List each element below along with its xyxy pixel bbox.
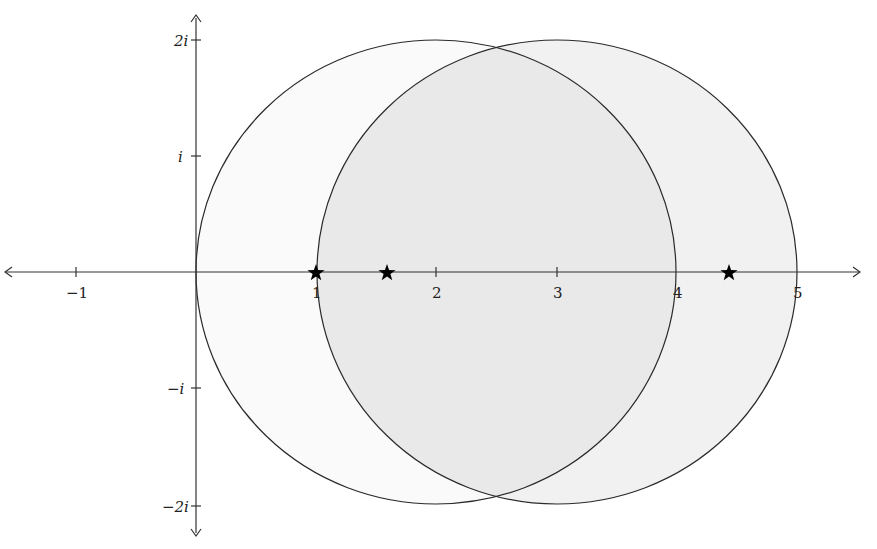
tick-label-i: i [178, 148, 183, 166]
tick-label-neg1: −1 [66, 284, 88, 302]
tick-label-neg-i: −i [167, 380, 185, 398]
tick-label-2: 2 [432, 284, 442, 302]
complex-plane-diagram: −1 1 2 3 4 5 2i i −i −2i [0, 0, 877, 549]
tick-label-5: 5 [793, 284, 803, 302]
tick-label-neg-2i: −2i [162, 498, 189, 516]
tick-label-4: 4 [673, 284, 683, 302]
tick-label-3: 3 [553, 284, 563, 302]
tick-label-1: 1 [312, 284, 322, 302]
tick-label-2i: 2i [173, 32, 189, 50]
